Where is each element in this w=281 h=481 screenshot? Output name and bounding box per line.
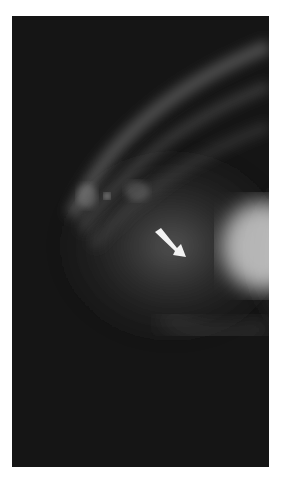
tissue-layer — [12, 16, 269, 467]
radiograph-image — [12, 16, 269, 467]
